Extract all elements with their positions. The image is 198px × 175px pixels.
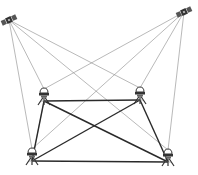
satellite-icon [0,14,17,26]
signal-line [44,12,184,89]
gnss-receiver-tripod-icon [26,148,38,165]
satellite-icon [175,6,192,18]
signal-line [9,20,140,88]
signal-line [9,20,168,150]
baseline-line [32,161,168,162]
signal-line [32,12,184,149]
gnss-receiver-tripod-icon [38,88,50,105]
satellite-signal-lines [9,12,184,150]
signal-line [9,20,44,89]
baseline-line [44,101,168,162]
signal-line [168,12,184,150]
gnss-receiver-tripod-icon [162,149,174,166]
baseline-line [32,100,140,161]
diagram-svg [0,0,198,175]
gnss-receiver-tripod-icon [134,87,146,104]
signal-line [140,12,184,88]
gnss-network-diagram [0,0,198,175]
baseline-line [44,100,140,101]
signal-line [9,20,32,149]
